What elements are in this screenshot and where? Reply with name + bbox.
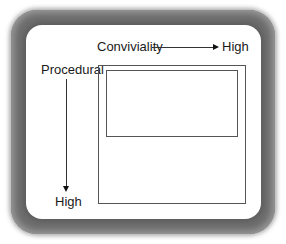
x-axis-line bbox=[152, 47, 214, 48]
inner-rectangle bbox=[106, 70, 238, 137]
arrow-down-icon bbox=[63, 186, 69, 192]
x-axis-end-label: High bbox=[222, 40, 249, 53]
y-axis-line bbox=[66, 79, 67, 187]
y-axis-label: Procedural bbox=[41, 63, 104, 76]
arrow-right-icon bbox=[213, 44, 219, 50]
y-axis-end-label: High bbox=[55, 195, 82, 208]
